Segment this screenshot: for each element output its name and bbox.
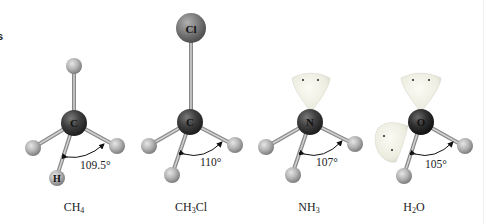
svg-text:Cl: Cl [186, 23, 197, 35]
svg-text:O: O [417, 116, 426, 128]
hydrogen-atom-icon [25, 140, 41, 156]
angle-arc-icon [67, 144, 104, 157]
hydrogen-atom-icon [227, 137, 243, 153]
svg-text:C: C [70, 117, 78, 129]
bond-angle-label-h2o: 105° [425, 158, 447, 170]
bond-angle-label-ch4: 109.5° [80, 159, 110, 171]
formula-caption-ch4: CH4 [64, 200, 85, 215]
angle-arc-icon [184, 142, 222, 156]
svg-text:C: C [186, 116, 194, 128]
lone-pair-lobe-icon [401, 73, 441, 112]
hydrogen-atom-icon [285, 167, 301, 183]
formula-caption-nh3: NH3 [298, 200, 319, 215]
formula-caption-h2o: H2O [403, 200, 424, 215]
formula-caption-ch3cl: CH3Cl [175, 200, 207, 215]
hydrogen-atom-icon [164, 167, 180, 183]
molecule-h2o: O [375, 73, 473, 184]
molecular-geometry-figure: s [0, 0, 491, 224]
hydrogen-atom-icon [347, 136, 363, 152]
molecule-ch3cl: Cl C [141, 13, 243, 183]
svg-text:H: H [53, 173, 61, 184]
angle-arc-icon [304, 141, 342, 155]
hydrogen-atom-icon [141, 138, 157, 154]
lone-pair-lobe-icon [375, 122, 408, 162]
hydrogen-atom-icon [109, 138, 125, 154]
bond-angle-label-nh3: 107° [316, 156, 338, 168]
svg-text:N: N [306, 116, 314, 128]
lone-pair-lobe-icon [292, 73, 330, 112]
angle-arc-icon [415, 142, 453, 156]
molecule-nh3: N [258, 73, 363, 183]
bond-angle-label-ch3cl: 110° [200, 156, 221, 168]
hydrogen-atom-icon [66, 58, 82, 74]
hydrogen-atom-icon [396, 168, 412, 184]
hydrogen-atom-icon [258, 139, 274, 155]
hydrogen-atom-icon [457, 138, 473, 154]
